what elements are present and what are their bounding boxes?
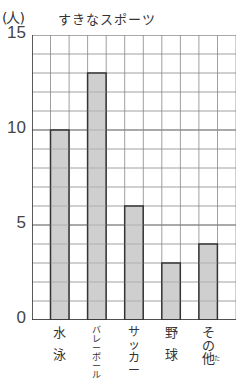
- x-tick-label: その他た: [199, 326, 217, 365]
- x-tick-label: バレーボール: [88, 326, 106, 380]
- x-tick-label: サッカー: [125, 326, 143, 378]
- x-tick-label: 水泳: [51, 326, 69, 361]
- y-tick-label: 15: [0, 23, 26, 43]
- y-tick-label: 10: [0, 118, 26, 138]
- bar-1: [88, 73, 107, 320]
- chart-title: すきなスポーツ: [58, 9, 156, 28]
- furigana: た: [214, 355, 220, 361]
- y-tick-label: 5: [0, 213, 26, 233]
- plot-area: [32, 35, 236, 320]
- y-tick-label: 0: [0, 308, 26, 328]
- bar-3: [162, 263, 181, 320]
- x-tick-label: 野球: [162, 326, 180, 361]
